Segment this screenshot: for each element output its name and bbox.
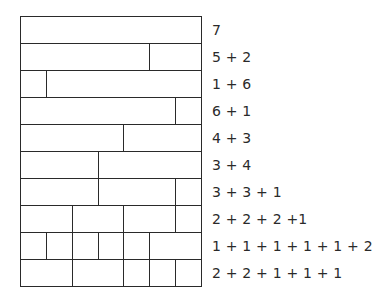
partition-row bbox=[20, 124, 201, 151]
partition-label: 1 + 1 + 1 + 1 + 1 + 2 bbox=[212, 233, 373, 260]
partition-row bbox=[20, 43, 201, 70]
partition-block-2 bbox=[123, 205, 176, 233]
partition-label: 3 + 3 + 1 bbox=[212, 179, 282, 206]
partition-block-1 bbox=[20, 70, 47, 98]
partition-block-1 bbox=[72, 232, 99, 260]
partition-diagram bbox=[20, 16, 202, 286]
partition-label: 5 + 2 bbox=[212, 44, 251, 71]
partition-block-5 bbox=[20, 43, 150, 71]
partition-block-3 bbox=[20, 178, 99, 206]
partition-block-3 bbox=[98, 178, 176, 206]
partition-label: 6 + 1 bbox=[212, 98, 251, 125]
partition-row bbox=[20, 97, 201, 124]
partition-row bbox=[20, 70, 201, 97]
partition-block-4 bbox=[98, 151, 202, 179]
partition-block-1 bbox=[98, 232, 124, 260]
partition-block-1 bbox=[175, 205, 202, 233]
partition-label: 3 + 4 bbox=[212, 152, 251, 179]
partition-row bbox=[20, 16, 201, 43]
partition-row bbox=[20, 205, 201, 232]
partition-block-1 bbox=[175, 259, 202, 287]
partition-block-2 bbox=[72, 259, 124, 287]
partition-row bbox=[20, 151, 201, 178]
partition-row bbox=[20, 232, 201, 259]
partition-block-1 bbox=[175, 178, 202, 206]
partition-block-6 bbox=[20, 97, 176, 125]
partition-label: 4 + 3 bbox=[212, 125, 251, 152]
partition-row bbox=[20, 259, 201, 286]
partition-block-2 bbox=[72, 205, 124, 233]
partition-block-2 bbox=[149, 43, 202, 71]
partition-row bbox=[20, 178, 201, 205]
partition-block-2 bbox=[20, 205, 73, 233]
partition-label: 2 + 2 + 2 +1 bbox=[212, 206, 307, 233]
partition-block-4 bbox=[20, 124, 124, 152]
partition-block-1 bbox=[123, 232, 150, 260]
partition-label: 2 + 2 + 1 + 1 + 1 bbox=[212, 260, 342, 287]
partition-block-3 bbox=[20, 151, 99, 179]
partition-block-6 bbox=[46, 70, 202, 98]
partition-label: 7 bbox=[212, 17, 221, 44]
partition-block-3 bbox=[123, 124, 202, 152]
partition-block-2 bbox=[20, 259, 73, 287]
partition-block-1 bbox=[46, 232, 73, 260]
partition-block-2 bbox=[149, 232, 202, 260]
partition-block-1 bbox=[20, 232, 47, 260]
partition-label: 1 + 6 bbox=[212, 71, 251, 98]
partition-block-7 bbox=[20, 16, 202, 44]
partition-block-1 bbox=[175, 97, 202, 125]
partition-block-1 bbox=[149, 259, 176, 287]
partition-block-1 bbox=[123, 259, 150, 287]
